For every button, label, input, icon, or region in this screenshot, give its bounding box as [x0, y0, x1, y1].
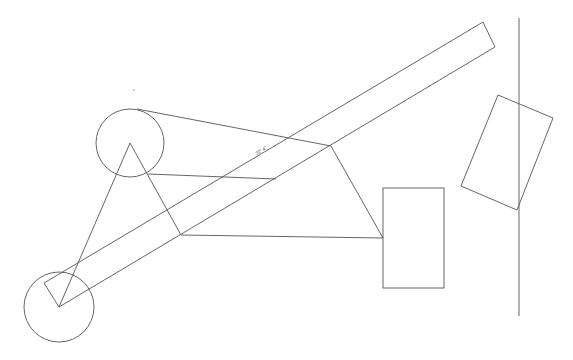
tri-right-leg-line [130, 143, 181, 235]
mid-link-line [148, 174, 276, 179]
center-rectangle [383, 188, 444, 288]
rotated-rectangle [461, 95, 553, 210]
top-tangent-line [137, 109, 331, 146]
cad-drawing: 32' 4" [0, 0, 573, 360]
marker-dot [133, 89, 135, 91]
tri-left-leg-line [59, 143, 130, 307]
long-bar-rectangle [44, 22, 495, 307]
diag-to-rect-line [331, 146, 383, 238]
marker-dots [133, 89, 135, 91]
drawing-canvas: 32' 4" [0, 0, 573, 360]
bottom-link-line [181, 235, 383, 238]
connector-lines [59, 109, 383, 307]
